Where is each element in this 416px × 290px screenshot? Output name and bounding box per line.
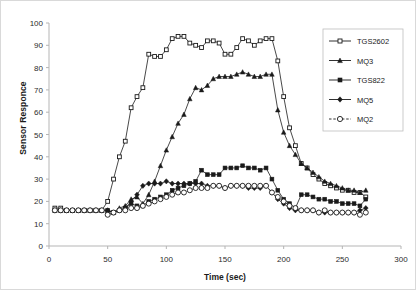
marker-filled-square: [241, 164, 245, 168]
y-tick-label-50: 50: [34, 131, 43, 140]
marker-open-square: [241, 37, 245, 41]
marker-open-circle: [164, 194, 169, 199]
marker-open-square: [211, 39, 215, 43]
marker-open-circle: [346, 210, 351, 215]
marker-open-circle: [264, 183, 269, 188]
marker-filled-square: [323, 197, 327, 201]
marker-filled-square: [217, 173, 221, 177]
marker-open-circle: [158, 197, 163, 202]
marker-filled-square: [270, 177, 274, 181]
legend-label-MQ3: MQ3: [357, 57, 373, 66]
marker-open-circle: [105, 212, 110, 217]
marker-open-square: [159, 55, 163, 59]
marker-open-square: [170, 37, 174, 41]
marker-filled-square: [329, 200, 333, 204]
marker-filled-triangle: [322, 179, 327, 183]
legend-label-MQ5: MQ5: [357, 96, 373, 105]
marker-open-square: [252, 43, 256, 47]
marker-open-circle: [135, 206, 140, 211]
marker-open-circle: [111, 210, 116, 215]
marker-filled-triangle: [158, 163, 163, 167]
series-TGS822: [53, 164, 368, 215]
marker-filled-diamond: [176, 181, 181, 186]
marker-open-square: [153, 55, 157, 59]
marker-open-circle: [357, 212, 362, 217]
marker-open-square: [106, 200, 110, 204]
legend: TGS2602MQ3TGS822MQ5MQ2: [323, 29, 403, 131]
marker-filled-triangle: [240, 70, 245, 74]
x-tick-label-200: 200: [277, 255, 291, 264]
marker-open-circle: [152, 199, 157, 204]
marker-open-square: [338, 39, 342, 43]
series-MQ3: [53, 70, 369, 215]
marker-open-square: [235, 46, 239, 50]
marker-open-square: [276, 59, 280, 63]
chart-canvas: 0102030405060708090100050100150200250300…: [1, 1, 416, 290]
marker-filled-square: [305, 193, 309, 197]
x-tick-label-50: 50: [103, 255, 112, 264]
marker-open-circle: [340, 210, 345, 215]
marker-filled-diamond: [140, 183, 145, 188]
marker-open-circle: [281, 199, 286, 204]
marker-open-circle: [211, 183, 216, 188]
y-tick-label-40: 40: [34, 153, 43, 162]
marker-open-circle: [99, 208, 104, 213]
marker-filled-diamond: [164, 179, 169, 184]
marker-filled-triangle: [287, 143, 292, 147]
marker-open-circle: [64, 208, 69, 213]
marker-filled-square: [235, 166, 239, 170]
marker-filled-triangle: [164, 148, 169, 152]
y-tick-label-20: 20: [34, 197, 43, 206]
y-tick-label-70: 70: [34, 86, 43, 95]
marker-open-circle: [305, 208, 310, 213]
marker-open-square: [282, 95, 286, 99]
series-line-MQ3: [55, 72, 366, 212]
marker-open-square: [135, 95, 139, 99]
x-tick-label-100: 100: [160, 255, 174, 264]
marker-open-circle: [269, 190, 274, 195]
marker-open-circle: [252, 183, 257, 188]
marker-filled-square: [364, 197, 368, 201]
marker-filled-square: [335, 200, 339, 204]
marker-open-circle: [311, 208, 316, 213]
marker-open-circle: [246, 183, 251, 188]
marker-filled-triangle: [188, 96, 193, 100]
marker-filled-square: [338, 78, 342, 82]
marker-filled-diamond: [146, 181, 151, 186]
marker-open-square: [294, 144, 298, 148]
marker-filled-square: [206, 173, 210, 177]
marker-open-square: [118, 155, 122, 159]
y-tick-label-90: 90: [34, 41, 43, 50]
marker-open-circle: [117, 208, 122, 213]
marker-open-square: [129, 106, 133, 110]
marker-filled-square: [276, 188, 280, 192]
marker-filled-square: [264, 166, 268, 170]
x-axis-title: Time (sec): [49, 272, 401, 282]
marker-open-circle: [293, 206, 298, 211]
marker-open-circle: [170, 192, 175, 197]
marker-open-circle: [123, 208, 128, 213]
marker-open-circle: [93, 208, 98, 213]
marker-filled-triangle: [170, 134, 175, 138]
series-line-TGS2602: [55, 36, 366, 210]
marker-filled-square: [352, 202, 356, 206]
marker-open-square: [141, 86, 145, 90]
y-axis-title: Sensor Responce: [18, 48, 28, 188]
marker-filled-square: [176, 186, 180, 190]
marker-open-circle: [299, 208, 304, 213]
marker-open-square: [217, 41, 221, 45]
marker-filled-triangle: [317, 174, 322, 178]
marker-filled-triangle: [193, 85, 198, 89]
marker-filled-square: [211, 173, 215, 177]
marker-open-square: [223, 52, 227, 56]
marker-open-square: [200, 46, 204, 50]
y-tick-label-80: 80: [34, 64, 43, 73]
marker-filled-square: [200, 168, 204, 172]
x-tick-label-0: 0: [47, 255, 52, 264]
marker-filled-triangle: [276, 108, 281, 112]
marker-open-circle: [258, 183, 263, 188]
marker-open-circle: [181, 190, 186, 195]
marker-filled-triangle: [182, 112, 187, 116]
marker-open-circle: [240, 183, 245, 188]
marker-open-circle: [70, 208, 75, 213]
